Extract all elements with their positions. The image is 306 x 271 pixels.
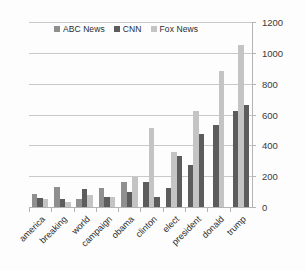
bar-fox-news-obama: [132, 177, 138, 207]
bar-group-president: [185, 22, 207, 207]
bar-extra-clinton: [154, 197, 160, 207]
bar-group-donald: [207, 22, 229, 207]
x-axis-labels: americabreakingworldcampaignobamaclinton…: [29, 208, 252, 270]
x-tick-slot: trump: [230, 208, 252, 270]
bars-container: [29, 22, 252, 207]
y-tick-mark: [252, 22, 256, 23]
x-tick-mark: [29, 208, 30, 212]
x-tick-mark: [51, 208, 52, 212]
bar-fox-news-world: [87, 195, 93, 207]
bar-fox-news-breaking: [65, 202, 71, 207]
y-tick-label: 400: [262, 140, 278, 151]
bar-group-obama: [118, 22, 140, 207]
y-tick-mark: [252, 115, 256, 116]
x-tick-mark: [163, 208, 164, 212]
x-tick-slot: breaking: [51, 208, 73, 270]
bar-fox-news-america: [43, 199, 49, 207]
y-tick-label: 0: [262, 202, 267, 213]
x-tick-mark: [230, 208, 231, 212]
x-tick-slot: obama: [118, 208, 140, 270]
bar-group-breaking: [51, 22, 73, 207]
x-tick-slot: clinton: [140, 208, 162, 270]
y-tick-label: 200: [262, 171, 278, 182]
y-axis-labels: 120010008006004002000: [258, 22, 306, 207]
y-tick-mark: [252, 84, 256, 85]
x-tick-mark: [118, 208, 119, 212]
bar-group-america: [29, 22, 51, 207]
x-tick-mark: [207, 208, 208, 212]
bar-fox-news-campaign: [110, 197, 116, 207]
y-tick-mark: [252, 145, 256, 146]
x-tick-mark: [140, 208, 141, 212]
bar-group-campaign: [96, 22, 118, 207]
y-tick-mark: [252, 207, 256, 208]
bar-group-elect: [163, 22, 185, 207]
bar-fox-news-donald: [219, 71, 225, 207]
x-tick-mark: [96, 208, 97, 212]
bar-chart: ABC NewsCNNFox News 12001000800600400200…: [0, 0, 306, 271]
x-tick-slot: president: [185, 208, 207, 270]
bar-extra-trump: [244, 105, 250, 207]
bar-group-trump: [230, 22, 252, 207]
y-tick-label: 1000: [262, 47, 283, 58]
bar-extra-president: [199, 134, 205, 207]
y-tick-label: 1200: [262, 17, 283, 28]
y-tick-mark: [252, 53, 256, 54]
bar-group-clinton: [140, 22, 162, 207]
x-tick-mark: [74, 208, 75, 212]
y-tick-label: 800: [262, 78, 278, 89]
y-tick-label: 600: [262, 109, 278, 120]
bar-group-world: [74, 22, 96, 207]
bar-extra-elect: [177, 156, 183, 207]
y-tick-mark: [252, 176, 256, 177]
x-tick-mark: [185, 208, 186, 212]
bar-fox-news-clinton: [149, 128, 155, 207]
x-tick-slot: donald: [207, 208, 229, 270]
